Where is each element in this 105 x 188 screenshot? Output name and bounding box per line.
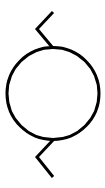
- schematic-symbol: [0, 0, 105, 188]
- circle-body: [7, 48, 99, 140]
- diagram-canvas: [0, 0, 105, 188]
- bottom-zigzag-lead: [37, 140, 53, 177]
- top-zigzag-lead: [37, 12, 53, 47]
